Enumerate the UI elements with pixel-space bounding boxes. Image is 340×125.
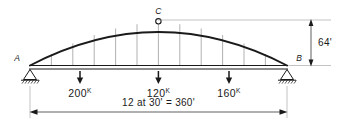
load-label-3-unit: K xyxy=(236,87,241,94)
node-label-c: C xyxy=(155,6,162,16)
node-label-a: A xyxy=(13,53,20,63)
arch-diagram-svg: A B C 200K 120K 160K xyxy=(0,0,340,125)
rise-dimension-label: 64' xyxy=(318,37,332,48)
load-label-1-value: 200 xyxy=(68,87,87,99)
load-label-3-value: 160 xyxy=(217,87,236,99)
span-dimension-label: 12 at 30' = 360' xyxy=(122,97,195,108)
node-label-b: B xyxy=(296,53,302,63)
load-label-1-unit: K xyxy=(87,87,92,94)
arch-structure-diagram: A B C 200K 120K 160K xyxy=(0,0,340,125)
load-label-2-unit: K xyxy=(165,87,170,94)
crown-hinge-icon xyxy=(156,19,161,24)
